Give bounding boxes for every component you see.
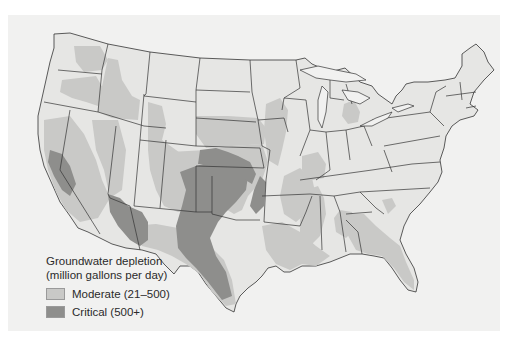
legend-item-critical: Critical (500+) <box>46 306 170 318</box>
legend-title: Groundwater depletion (million gallons p… <box>46 254 170 282</box>
moderate-swatch <box>46 288 65 300</box>
legend-label-critical: Critical (500+) <box>72 306 144 318</box>
critical-swatch <box>46 306 65 318</box>
legend-item-moderate: Moderate (21–500) <box>46 288 170 300</box>
legend-title-line2: (million gallons per day) <box>46 268 170 282</box>
legend-label-moderate: Moderate (21–500) <box>72 288 170 300</box>
legend-title-line1: Groundwater depletion <box>46 254 170 268</box>
map-legend: Groundwater depletion (million gallons p… <box>46 254 170 318</box>
